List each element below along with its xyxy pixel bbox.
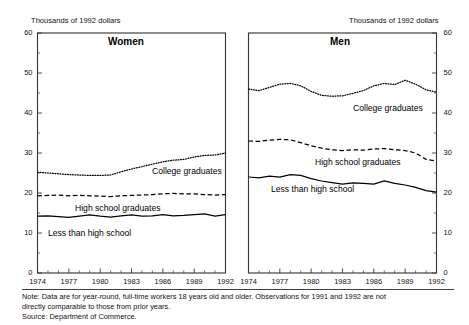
x-tick-label: 1989 (392, 277, 418, 286)
y-tick-label: 60 (444, 28, 458, 37)
y-tick-label: 0 (19, 268, 33, 277)
y-tick-label: 40 (19, 108, 33, 117)
panel-frame (249, 33, 437, 273)
earnings-chart-figure: Thousands of 1992 dollars Thousands of 1… (0, 0, 469, 325)
x-tick-label: 1983 (119, 277, 145, 286)
series-label-women-college: College graduates (152, 166, 222, 176)
y-tick-label: 20 (444, 188, 458, 197)
x-tick-label: 1977 (267, 277, 293, 286)
x-tick-label: 1974 (25, 277, 51, 286)
series-label-women-highschool: High school graduates (75, 203, 161, 213)
men-series-lines (249, 80, 437, 192)
note-line-2: directly comparable to those from prior … (22, 302, 454, 312)
y-tick-label: 50 (19, 68, 33, 77)
y-tick-label: 20 (19, 188, 33, 197)
series-line-men-dotted (249, 80, 437, 96)
panel-title-women: Women (108, 36, 144, 47)
y-axis-units-label-right: Thousands of 1992 dollars (349, 16, 439, 25)
y-tick-label: 30 (19, 148, 33, 157)
series-label-women-lessthan: Less than high school (48, 228, 131, 238)
x-tick-label: 1977 (56, 277, 82, 286)
y-tick-label: 60 (19, 28, 33, 37)
y-axis-units-label-left: Thousands of 1992 dollars (31, 16, 121, 25)
x-tick-label: 1986 (361, 277, 387, 286)
y-tick-label: 0 (444, 268, 458, 277)
y-tick-label: 50 (444, 68, 458, 77)
series-line-women-solid (38, 214, 226, 218)
series-label-men-college: College graduates (353, 103, 423, 113)
series-label-men-lessthan: Less than high school (271, 184, 354, 194)
x-tick-label: 1974 (236, 277, 262, 286)
note-line-1: Note: Data are for year-round, full-time… (22, 292, 454, 302)
x-tick-label: 1989 (181, 277, 207, 286)
y-tick-label: 10 (444, 228, 458, 237)
x-tick-label: 1983 (330, 277, 356, 286)
x-tick-label: 1986 (150, 277, 176, 286)
x-tick-label: 1992 (424, 277, 450, 286)
men-panel-frame (249, 33, 437, 273)
series-line-women-dashed (38, 193, 226, 196)
x-tick-label: 1980 (87, 277, 113, 286)
y-tick-label: 40 (444, 108, 458, 117)
chart-note-block: Note: Data are for year-round, full-time… (22, 292, 454, 322)
y-tick-label: 30 (444, 148, 458, 157)
y-tick-label: 10 (19, 228, 33, 237)
x-tick-label: 1980 (298, 277, 324, 286)
series-label-men-highschool: High school graduates (315, 157, 401, 167)
note-source-line: Source: Department of Commerce. (22, 312, 454, 322)
panel-title-men: Men (330, 36, 350, 47)
